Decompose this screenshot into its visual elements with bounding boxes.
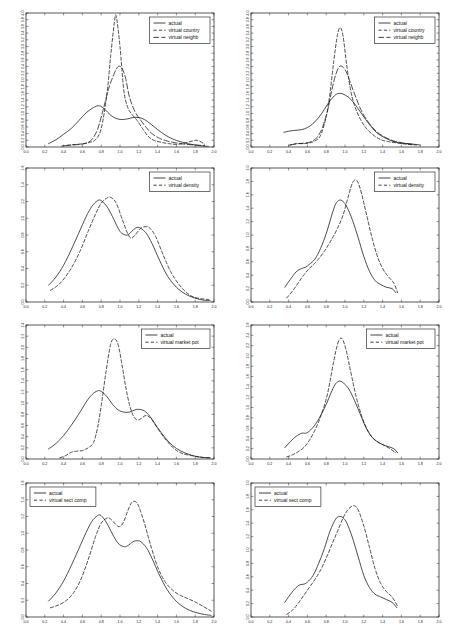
x-tick-label: 1.4 [380, 305, 385, 309]
x-tick-label: 0.0 [24, 305, 29, 309]
y-tick-label: 1.6 [246, 91, 250, 96]
x-tick-label: 1.0 [118, 305, 123, 309]
y-tick-label: 0.2 [246, 286, 250, 291]
x-tick-label: 2.0 [437, 462, 442, 466]
y-tick-label: 2.4 [246, 333, 250, 338]
x-tick-label: 1.2 [136, 620, 141, 624]
x-tick-label: 1.4 [155, 620, 160, 624]
x-tick-label: 1.0 [343, 620, 348, 624]
legend-label: actual [394, 20, 407, 26]
series-curve-virtual-density [50, 197, 208, 300]
x-tick-label: 0.0 [24, 150, 29, 154]
x-tick-label: 0.8 [324, 150, 329, 154]
x-tick-label: 1.8 [193, 462, 198, 466]
y-tick-label: 1.4 [246, 98, 250, 103]
x-tick-label: 0.0 [24, 462, 29, 466]
y-tick-label: 0.4 [246, 273, 250, 278]
chart-panel-1: 0.00.20.40.60.81.01.21.41.61.82.00.00.20… [6, 8, 218, 160]
y-tick-label: 0.2 [21, 598, 25, 603]
x-tick-label: 0.4 [286, 620, 291, 624]
y-tick-label: 0.6 [21, 423, 25, 428]
y-tick-label: 2.8 [21, 51, 25, 56]
y-tick-label: 1.8 [246, 84, 250, 89]
x-tick-label: 1.8 [418, 305, 423, 309]
x-tick-label: 1.0 [343, 305, 348, 309]
y-tick-label: 0.2 [246, 138, 250, 143]
y-tick-label: 2.6 [21, 57, 25, 62]
y-tick-label: 1.8 [246, 364, 250, 369]
x-tick-label: 0.4 [286, 462, 291, 466]
legend-label: virtual density [394, 182, 425, 188]
y-tick-label: 1.6 [21, 91, 25, 96]
x-tick-label: 1.0 [343, 150, 348, 154]
y-tick-label: 3.2 [246, 37, 250, 42]
x-tick-label: 0.6 [80, 462, 85, 466]
y-tick-label: 0.0 [21, 615, 25, 620]
y-tick-label: 1.0 [246, 405, 250, 410]
x-tick-label: 1.8 [193, 620, 198, 624]
y-tick-label: 3.6 [246, 24, 250, 29]
y-tick-label: 1.4 [21, 497, 25, 502]
y-tick-label: 4.0 [246, 11, 250, 16]
y-tick-label: 2.0 [246, 78, 250, 83]
y-tick-label: 0.4 [246, 588, 250, 593]
y-tick-label: 1.8 [21, 84, 25, 89]
legend-label: virtual density [169, 182, 200, 188]
chart-panel-4: 0.00.20.40.60.81.01.21.41.61.82.00.00.20… [231, 163, 443, 315]
y-tick-label: 1.4 [246, 384, 250, 389]
x-tick-label: 0.0 [249, 150, 254, 154]
x-tick-label: 1.8 [418, 620, 423, 624]
y-tick-label: 0.2 [21, 445, 25, 450]
x-tick-label: 0.2 [267, 620, 272, 624]
series-curve-actual [49, 200, 211, 301]
x-tick-label: 0.4 [61, 462, 66, 466]
series-curve-actual [285, 516, 397, 607]
y-tick-label: 1.8 [21, 356, 25, 361]
y-tick-label: 1.4 [21, 378, 25, 383]
y-tick-label: 0.8 [21, 118, 25, 123]
x-tick-label: 1.4 [155, 150, 160, 154]
y-tick-label: 2.0 [246, 166, 250, 171]
y-tick-label: 3.0 [21, 44, 25, 49]
x-tick-label: 0.4 [61, 305, 66, 309]
x-tick-label: 1.2 [136, 150, 141, 154]
x-tick-label: 1.4 [380, 462, 385, 466]
y-tick-label: 1.6 [21, 367, 25, 372]
x-tick-label: 0.0 [24, 620, 29, 624]
y-tick-label: 0.6 [21, 249, 25, 254]
chart-panel-8: 0.00.20.40.60.81.01.21.41.61.82.00.00.20… [231, 478, 443, 630]
x-tick-label: 0.4 [61, 620, 66, 624]
y-tick-label: 2.4 [246, 64, 250, 69]
x-tick-label: 0.6 [305, 462, 310, 466]
y-tick-label: 0.4 [246, 436, 250, 441]
x-tick-label: 0.8 [324, 462, 329, 466]
y-tick-label: 0.8 [246, 415, 250, 420]
y-tick-label: 1.0 [246, 233, 250, 238]
x-tick-label: 2.0 [212, 462, 217, 466]
y-tick-label: 0.6 [246, 124, 250, 129]
series-curve-virtual-density [287, 180, 398, 298]
y-tick-label: 0.8 [21, 233, 25, 238]
y-tick-label: 1.4 [21, 98, 25, 103]
y-tick-label: 1.2 [21, 514, 25, 519]
legend-label: virtual neighb [394, 34, 424, 40]
y-tick-label: 0.0 [21, 145, 25, 150]
legend-label: virtual market pot [385, 339, 424, 345]
x-tick-label: 1.4 [380, 620, 385, 624]
y-tick-label: 3.8 [21, 17, 25, 22]
y-tick-label: 1.0 [246, 548, 250, 553]
x-tick-label: 0.2 [267, 462, 272, 466]
x-tick-label: 1.4 [155, 462, 160, 466]
y-tick-label: 1.6 [246, 507, 250, 512]
x-tick-label: 0.2 [267, 305, 272, 309]
series-curve-virtual-neighb [290, 66, 412, 145]
y-tick-label: 1.4 [246, 206, 250, 211]
y-tick-label: 2.4 [21, 323, 25, 328]
y-tick-label: 1.0 [246, 111, 250, 116]
y-tick-label: 1.6 [246, 374, 250, 379]
y-tick-label: 3.8 [246, 17, 250, 22]
x-tick-label: 1.6 [174, 462, 179, 466]
x-tick-label: 0.6 [80, 150, 85, 154]
y-tick-label: 0.6 [246, 259, 250, 264]
x-tick-label: 0.2 [42, 305, 47, 309]
